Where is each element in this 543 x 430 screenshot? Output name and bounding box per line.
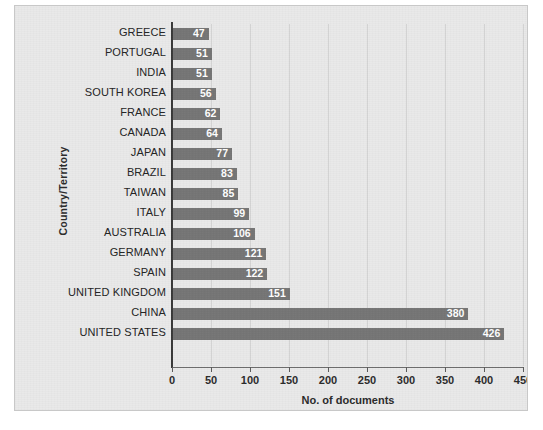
x-axis-tick xyxy=(172,367,173,372)
bar-value-label: 51 xyxy=(196,67,208,80)
bar-row: INDIA51 xyxy=(172,64,523,84)
x-axis-tick-label: 350 xyxy=(425,374,465,386)
bar-value-label: 106 xyxy=(233,227,251,240)
bar-row: CHINA380 xyxy=(172,304,523,324)
x-axis-line xyxy=(172,367,524,368)
bar-value-label: 426 xyxy=(483,327,501,340)
bar: 151 xyxy=(172,288,290,300)
x-axis-tick xyxy=(250,367,251,372)
bar: 51 xyxy=(172,48,212,60)
y-axis-line xyxy=(171,22,173,368)
x-axis-tick xyxy=(289,367,290,372)
x-axis-tick xyxy=(445,367,446,372)
bar-value-label: 121 xyxy=(245,247,263,260)
bar: 122 xyxy=(172,268,267,280)
bar-value-label: 64 xyxy=(206,127,218,140)
bar: 99 xyxy=(172,208,249,220)
gridline xyxy=(523,24,524,366)
bar-row: UNITED STATES426 xyxy=(172,324,523,344)
bar-row: AUSTRALIA106 xyxy=(172,224,523,244)
bar-row: UNITED KINGDOM151 xyxy=(172,284,523,304)
category-label: CHINA xyxy=(14,306,166,318)
category-label: BRAZIL xyxy=(14,166,166,178)
x-axis-tick xyxy=(367,367,368,372)
bar-value-label: 99 xyxy=(234,207,246,220)
bar-value-label: 83 xyxy=(221,167,233,180)
x-axis-tick-label: 450 xyxy=(503,374,528,386)
x-axis-tick-label: 200 xyxy=(308,374,348,386)
x-axis-tick xyxy=(328,367,329,372)
x-axis-tick-label: 300 xyxy=(386,374,426,386)
bar-row: PORTUGAL51 xyxy=(172,44,523,64)
x-axis-tick xyxy=(406,367,407,372)
bar-value-label: 47 xyxy=(193,27,205,40)
bar-row: ITALY99 xyxy=(172,204,523,224)
bar-value-label: 62 xyxy=(205,107,217,120)
bar: 62 xyxy=(172,108,220,120)
bar-row: CANADA64 xyxy=(172,124,523,144)
bar: 121 xyxy=(172,248,266,260)
x-axis-tick-label: 400 xyxy=(464,374,504,386)
category-label: INDIA xyxy=(14,66,166,78)
bar-row: SOUTH KOREA56 xyxy=(172,84,523,104)
x-axis-tick-label: 150 xyxy=(269,374,309,386)
bar: 77 xyxy=(172,148,232,160)
bar-value-label: 51 xyxy=(196,47,208,60)
bar-value-label: 85 xyxy=(223,187,235,200)
bar: 85 xyxy=(172,188,238,200)
category-label: CANADA xyxy=(14,126,166,138)
plot-area: GREECE47PORTUGAL51INDIA51SOUTH KOREA56FR… xyxy=(172,24,523,366)
bar: 47 xyxy=(172,28,209,40)
bar: 83 xyxy=(172,168,237,180)
bar-row: BRAZIL83 xyxy=(172,164,523,184)
bar-value-label: 151 xyxy=(268,287,286,300)
x-axis-tick-label: 100 xyxy=(230,374,270,386)
bar: 106 xyxy=(172,228,255,240)
category-label: UNITED STATES xyxy=(14,326,166,338)
bar-row: GERMANY121 xyxy=(172,244,523,264)
category-label: AUSTRALIA xyxy=(14,226,166,238)
x-axis-title: No. of documents xyxy=(172,394,524,406)
bar-value-label: 122 xyxy=(246,267,264,280)
x-axis-tick xyxy=(523,367,524,372)
bar-row: FRANCE62 xyxy=(172,104,523,124)
x-axis-tick xyxy=(484,367,485,372)
bar: 64 xyxy=(172,128,222,140)
category-label: FRANCE xyxy=(14,106,166,118)
category-label: SPAIN xyxy=(14,266,166,278)
x-axis-tick-label: 250 xyxy=(347,374,387,386)
chart-frame: Country/Territory GREECE47PORTUGAL51INDI… xyxy=(14,5,528,411)
bar-value-label: 77 xyxy=(216,147,228,160)
category-label: ITALY xyxy=(14,206,166,218)
bar-chart-figure: Country/Territory GREECE47PORTUGAL51INDI… xyxy=(0,0,543,430)
x-axis-tick-label: 0 xyxy=(152,374,192,386)
x-axis-tick-label: 50 xyxy=(191,374,231,386)
bar-row: GREECE47 xyxy=(172,24,523,44)
category-label: TAIWAN xyxy=(14,186,166,198)
category-label: JAPAN xyxy=(14,146,166,158)
bar: 56 xyxy=(172,88,216,100)
bar-value-label: 56 xyxy=(200,87,212,100)
bar: 51 xyxy=(172,68,212,80)
category-label: PORTUGAL xyxy=(14,46,166,58)
bar-row: TAIWAN85 xyxy=(172,184,523,204)
bar-row: SPAIN122 xyxy=(172,264,523,284)
bar-row: JAPAN77 xyxy=(172,144,523,164)
category-label: GREECE xyxy=(14,26,166,38)
bar: 426 xyxy=(172,328,504,340)
bar-value-label: 380 xyxy=(447,307,465,320)
category-label: SOUTH KOREA xyxy=(14,86,166,98)
bar: 380 xyxy=(172,308,468,320)
category-label: UNITED KINGDOM xyxy=(14,286,166,298)
x-axis-tick xyxy=(211,367,212,372)
category-label: GERMANY xyxy=(14,246,166,258)
